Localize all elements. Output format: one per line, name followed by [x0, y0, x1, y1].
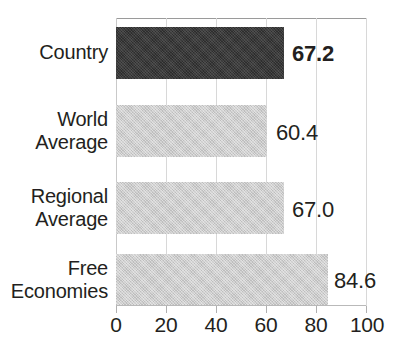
category-label-world-average-line2: Average: [0, 131, 108, 154]
xtick-label-0: 0: [110, 313, 121, 337]
tick-mark-20: [166, 306, 167, 313]
tick-mark-60: [266, 306, 267, 313]
bar-country-fill: [116, 27, 284, 79]
chart-title-remnant: [116, 0, 366, 7]
category-label-country: Country: [0, 41, 108, 64]
value-label-country: 67.2: [292, 41, 334, 67]
bar-world-average-fill: [116, 105, 267, 157]
bar-free-economies: [116, 254, 328, 306]
category-label-country-line1: Country: [0, 41, 108, 64]
value-label-free-economies: 84.6: [334, 268, 376, 294]
value-label-world-average: 60.4: [276, 120, 318, 146]
bar-chart: Country World Average Regional Average F…: [0, 0, 405, 360]
xtick-label-20: 20: [155, 313, 178, 337]
category-label-world-average-line1: World: [0, 108, 108, 131]
bar-regional-average: [116, 182, 284, 234]
bar-country: [116, 27, 284, 79]
category-label-regional-average-line2: Average: [0, 208, 108, 231]
gridline-100: [366, 18, 367, 306]
bar-regional-average-fill: [116, 182, 284, 234]
value-label-regional-average: 67.0: [292, 197, 334, 223]
category-label-free-economies-line2: Economies: [0, 280, 108, 303]
category-label-world-average: World Average: [0, 108, 108, 154]
category-label-free-economies: Free Economies: [0, 257, 108, 303]
bar-free-economies-fill: [116, 254, 328, 306]
plot-bottom-rule: [116, 305, 366, 306]
tick-mark-80: [316, 306, 317, 313]
category-label-regional-average: Regional Average: [0, 185, 108, 231]
xtick-label-60: 60: [255, 313, 278, 337]
tick-mark-100: [366, 306, 367, 313]
category-label-regional-average-line1: Regional: [0, 185, 108, 208]
xtick-label-40: 40: [205, 313, 228, 337]
tick-mark-0: [116, 306, 117, 313]
xtick-label-100: 100: [350, 313, 384, 337]
xtick-label-80: 80: [305, 313, 328, 337]
category-label-free-economies-line1: Free: [0, 257, 108, 280]
tick-mark-40: [216, 306, 217, 313]
plot-top-rule: [116, 18, 366, 19]
bar-world-average: [116, 105, 267, 157]
